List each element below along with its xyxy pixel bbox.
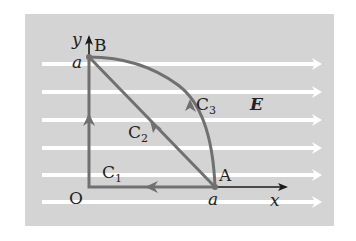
c2-label-sub: 2 — [141, 132, 148, 145]
point-a-label: A — [218, 165, 232, 185]
c3-label-main: C — [196, 94, 209, 114]
field-label: E — [249, 94, 264, 114]
c2-label-main: C — [128, 122, 141, 142]
y-axis-label: y — [71, 29, 82, 49]
y-tick-label: a — [72, 52, 82, 72]
x-axis-label: x — [270, 190, 280, 210]
c1-label-main: C — [102, 162, 115, 182]
point-b-label: B — [94, 35, 107, 55]
c3-label-sub: 3 — [209, 104, 216, 117]
c1-label-sub: 1 — [115, 172, 122, 185]
field-path-diagram: y B a O a A x C1 C2 C3 E — [0, 0, 356, 241]
point-b-marker — [86, 54, 92, 60]
origin-label: O — [69, 188, 83, 208]
x-tick-label: a — [208, 189, 218, 209]
